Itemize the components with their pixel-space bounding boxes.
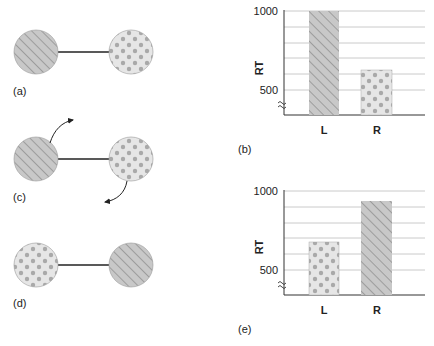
dotted-node [14,243,58,287]
gridlines [284,11,425,90]
rotation-arrow-down-icon [105,181,127,202]
category-l: L [321,304,328,316]
dotted-node [109,137,153,181]
ytick-500: 500 [260,84,278,96]
panel-label-d: (d) [13,297,26,309]
figure: (a) (c) (d) 1000 500 RT L [0,0,434,346]
chart-b: 1000 500 RT L R (b) [238,5,425,155]
panel-label-e: (e) [238,323,251,335]
dotted-node [109,30,153,74]
panel-label-a: (a) [13,85,26,97]
hatched-node [14,137,58,181]
rotation-arrow-up-icon [50,120,73,143]
panel-label-c: (c) [13,191,26,203]
y-axis-label: RT [253,239,265,254]
panel-label-b: (b) [238,143,251,155]
category-r: R [373,124,381,136]
bar-l [309,11,339,115]
chart-e: 1000 500 RT L R (e) [238,185,425,335]
bar-l [309,242,339,295]
panel-c: (c) [13,120,153,203]
panel-d: (d) [13,243,153,309]
axis-break-icon [278,102,286,109]
axis-break-icon [278,282,286,289]
hatched-node [109,243,153,287]
category-r: R [373,304,381,316]
ytick-500: 500 [260,264,278,276]
bar-r [361,70,392,115]
bar-r [361,201,392,295]
ytick-1000: 1000 [254,5,278,17]
gridlines [284,191,425,270]
panel-a: (a) [13,30,153,97]
category-l: L [321,124,328,136]
ytick-1000: 1000 [254,185,278,197]
y-axis-label: RT [253,60,265,75]
hatched-node [14,30,58,74]
